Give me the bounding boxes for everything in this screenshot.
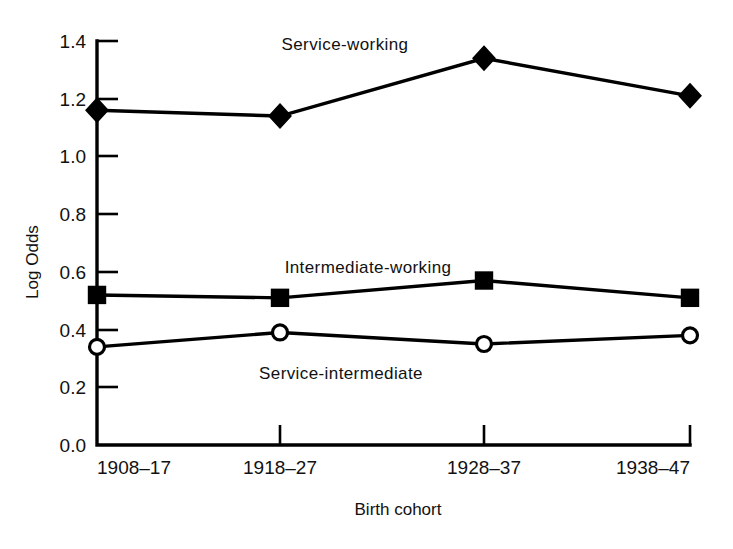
y-tick-label: 0.2 xyxy=(60,377,86,398)
series-line-service-working xyxy=(97,58,690,116)
data-point-open-circle xyxy=(477,337,492,352)
y-tick-label: 0.4 xyxy=(60,320,87,341)
x-axis-tick-labels: 1908–17 1918–27 1928–37 1938–47 xyxy=(97,457,690,478)
y-tick-label: 0.6 xyxy=(60,262,86,283)
data-point-filled-diamond xyxy=(473,46,495,70)
line-chart: 1.4 1.2 1.0 0.8 0.6 0.4 0.2 0.0 1908–17 … xyxy=(0,0,733,549)
data-point-open-circle xyxy=(90,339,105,354)
chart-container: 1.4 1.2 1.0 0.8 0.6 0.4 0.2 0.0 1908–17 … xyxy=(0,0,733,549)
y-tick-label: 0.8 xyxy=(60,204,86,225)
data-point-open-circle xyxy=(273,325,288,340)
x-tick-label: 1918–27 xyxy=(243,457,317,478)
x-tick-label: 1908–17 xyxy=(97,457,171,478)
y-axis-ticks xyxy=(97,41,118,387)
series-line-service-intermediate xyxy=(97,332,690,346)
data-point-filled-square xyxy=(272,289,289,306)
x-axis-ticks xyxy=(280,425,690,445)
y-tick-label: 0.0 xyxy=(60,435,86,456)
series-markers-service-working xyxy=(86,46,701,128)
x-tick-label: 1938–47 xyxy=(616,457,690,478)
series-annotation-service-working: Service-working xyxy=(282,35,409,54)
series-line-intermediate-working xyxy=(97,281,690,298)
data-point-filled-square xyxy=(476,272,493,289)
data-point-filled-square xyxy=(682,289,699,306)
y-tick-label: 1.2 xyxy=(60,89,86,110)
data-point-filled-square xyxy=(89,286,106,303)
series-annotation-intermediate-working: Intermediate-working xyxy=(285,258,452,277)
y-tick-label: 1.4 xyxy=(60,31,87,52)
data-point-open-circle xyxy=(683,328,698,343)
x-tick-label: 1928–37 xyxy=(447,457,521,478)
data-point-filled-diamond xyxy=(269,104,291,128)
y-axis-title: Log Odds xyxy=(23,225,42,299)
axis-lines xyxy=(97,41,690,445)
data-point-filled-diamond xyxy=(679,84,701,108)
series-annotation-service-intermediate: Service-intermediate xyxy=(259,364,423,383)
y-axis-tick-labels: 1.4 1.2 1.0 0.8 0.6 0.4 0.2 0.0 xyxy=(60,31,87,456)
x-axis-title: Birth cohort xyxy=(355,500,442,519)
y-tick-label: 1.0 xyxy=(60,146,86,167)
data-point-filled-diamond xyxy=(86,98,108,122)
